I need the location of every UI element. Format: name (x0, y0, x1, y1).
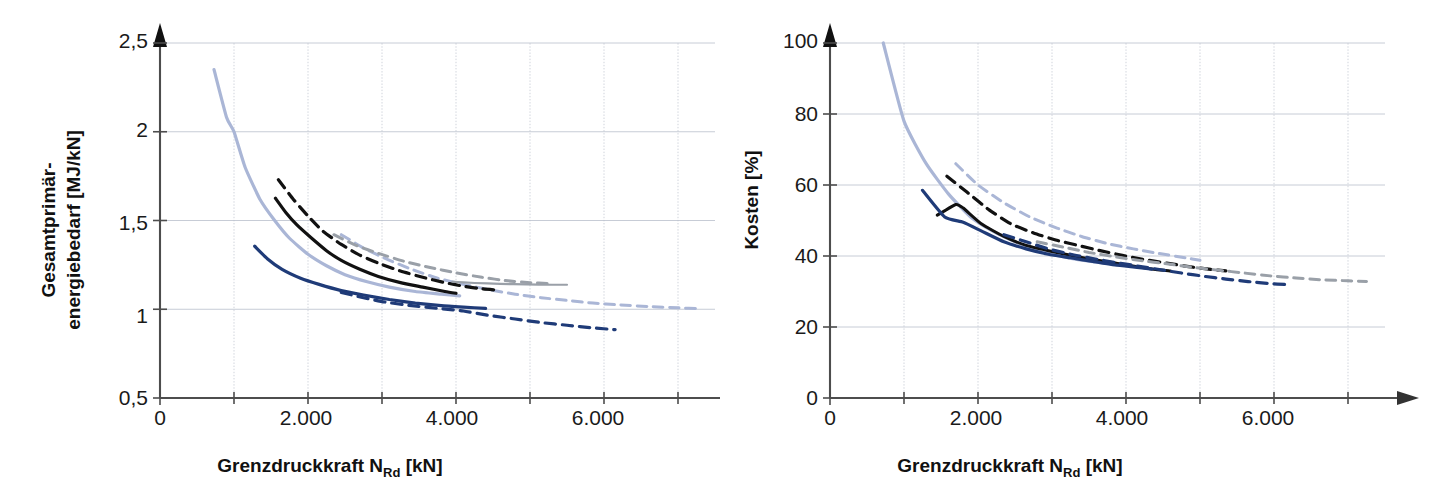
x-tick-label-4000: 4.000 (426, 406, 479, 429)
x-axis-title-unit: [kN] (1080, 455, 1122, 476)
x-tick-label-2000: 2.000 (950, 406, 1003, 429)
right-gridlines (830, 43, 1385, 398)
x-tick-label-6000: 6.000 (572, 406, 625, 429)
x-axis-title: Grenzdruckkraft NRd [kN] (897, 455, 1122, 480)
right-axes (823, 23, 1419, 405)
y-tick-label-100: 100 (783, 29, 818, 52)
y-tick-label-1: 1 (136, 304, 148, 327)
x-axis-title-main: Grenzdruckkraft N (217, 455, 383, 476)
x-tick-label-6000: 6.000 (1242, 406, 1295, 429)
y-tick-label-60: 60 (795, 173, 818, 196)
y-tick-label-80: 80 (795, 102, 818, 125)
x-tick-label-0: 0 (154, 406, 166, 429)
series-light-blue-dashed (341, 235, 700, 309)
x-axis-title-sub: Rd (383, 465, 400, 480)
chart-panel-left: 0 2.000 4.000 6.000 0,5 1 1,5 2 2,5 Gesa… (0, 0, 720, 501)
x-axis-title-unit: [kN] (400, 455, 442, 476)
right-chart-svg: 0 2.000 4.000 6.000 0 20 40 60 80 100 Ko… (720, 0, 1431, 501)
y-tick-label-1-5: 1,5 (119, 211, 148, 234)
figure-root: 0 2.000 4.000 6.000 0,5 1 1,5 2 2,5 Gesa… (0, 0, 1431, 501)
y-axis-title: Kosten [%] (741, 150, 762, 249)
x-tick-label-4000: 4.000 (1096, 406, 1149, 429)
y-tick-label-20: 20 (795, 315, 818, 338)
y-tick-label-40: 40 (795, 244, 818, 267)
y-axis-title-line1: Gesamtprimär- (38, 162, 59, 297)
x-axis-title-main: Grenzdruckkraft N (897, 455, 1063, 476)
series-dark-blue-solid (255, 246, 486, 308)
x-tick-label-2000: 2.000 (280, 406, 333, 429)
y-axis-title-line2: energiebedarf [MJ/kN] (63, 130, 84, 330)
chart-panel-right: 0 2.000 4.000 6.000 0 20 40 60 80 100 Ko… (720, 0, 1431, 501)
left-series-group (214, 70, 700, 330)
y-tick-label-2-5: 2,5 (119, 29, 148, 52)
y-tick-label-0-5: 0,5 (119, 386, 148, 409)
y-tick-label-0: 0 (806, 386, 818, 409)
left-chart-svg: 0 2.000 4.000 6.000 0,5 1 1,5 2 2,5 Gesa… (0, 0, 720, 501)
y-tick-label-2: 2 (136, 118, 148, 141)
x-axis-title-sub: Rd (1063, 465, 1080, 480)
x-tick-label-0: 0 (824, 406, 836, 429)
series-light-blue-solid (214, 70, 460, 296)
x-axis-title: Grenzdruckkraft NRd [kN] (217, 455, 442, 480)
series-light-blue-solid (883, 43, 1137, 267)
right-series-group (883, 43, 1366, 284)
left-axes (153, 23, 720, 405)
left-gridlines (160, 43, 715, 398)
